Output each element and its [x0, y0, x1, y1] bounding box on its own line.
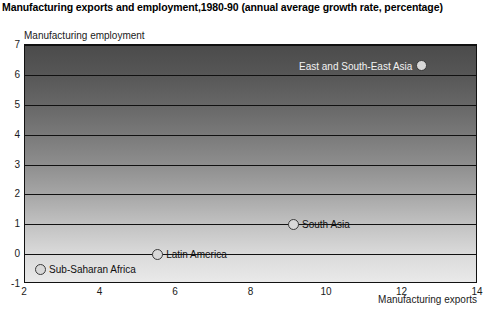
data-point-marker[interactable]	[416, 60, 427, 71]
y-axis-tick-label: 5	[14, 98, 20, 109]
data-point-marker[interactable]	[35, 264, 46, 275]
y-axis-tick-label: 0	[14, 248, 20, 259]
y-axis-tick-label: 1	[14, 218, 20, 229]
data-point-marker[interactable]	[152, 249, 163, 260]
gridline	[25, 45, 476, 46]
y-axis-tick-label: 3	[14, 158, 20, 169]
x-axis-tick-label: 8	[248, 286, 254, 297]
data-point-label: Sub-Saharan Africa	[49, 264, 136, 275]
x-axis-label: Manufacturing exports	[378, 294, 477, 305]
gridline	[25, 194, 476, 195]
data-point-label: East and South-East Asia	[299, 60, 412, 71]
x-axis-tick-label: 6	[172, 286, 178, 297]
y-axis-label: Manufacturing employment	[24, 30, 145, 41]
y-axis-tick-label: 2	[14, 188, 20, 199]
data-point-label: Latin America	[166, 249, 227, 260]
chart-title: Manufacturing exports and employment,198…	[2, 1, 443, 13]
gridline	[25, 75, 476, 76]
x-axis-tick-label: 4	[97, 286, 103, 297]
gridline	[25, 224, 476, 225]
gridline	[25, 135, 476, 136]
gridline	[25, 165, 476, 166]
y-axis-tick-label: 6	[14, 68, 20, 79]
y-axis-tick-label: -1	[11, 278, 20, 289]
y-axis-tick-label: 7	[14, 39, 20, 50]
y-axis-tick-label: 4	[14, 128, 20, 139]
x-axis-tick-label: 2	[21, 286, 27, 297]
x-axis-tick-label: 10	[320, 286, 331, 297]
data-point-marker[interactable]	[288, 219, 299, 230]
plot-area: East and South-East AsiaSouth AsiaLatin …	[24, 44, 477, 283]
gridline	[25, 105, 476, 106]
data-point-label: South Asia	[302, 219, 350, 230]
gridline	[25, 254, 476, 255]
